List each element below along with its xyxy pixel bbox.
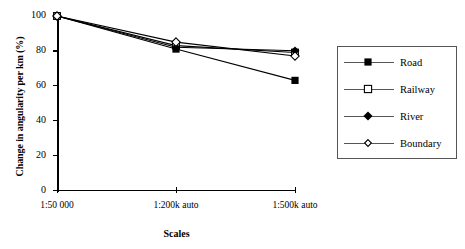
legend-sample-boundary bbox=[338, 133, 400, 153]
filled-square-icon bbox=[362, 56, 374, 68]
data-point-road-2 bbox=[291, 77, 298, 84]
open-diamond-icon bbox=[362, 137, 374, 149]
legend-item-boundary[interactable]: Boundary bbox=[338, 131, 458, 155]
legend-item-river[interactable]: River bbox=[338, 104, 458, 128]
legend-item-railway[interactable]: Railway bbox=[338, 77, 458, 101]
legend-sample-railway bbox=[338, 79, 400, 99]
legend-label-road: Road bbox=[400, 57, 422, 68]
legend-label-boundary: Boundary bbox=[400, 138, 441, 149]
legend-label-river: River bbox=[400, 111, 423, 122]
legend-item-road[interactable]: Road bbox=[338, 50, 458, 74]
filled-diamond-icon bbox=[362, 110, 374, 122]
legend-box: Road Railway River bbox=[337, 46, 457, 159]
chart-figure: Change in angularity per km (%) 100 80 6… bbox=[0, 0, 465, 249]
legend-sample-road bbox=[338, 52, 400, 72]
legend-sample-river bbox=[338, 106, 400, 126]
legend-label-railway: Railway bbox=[400, 84, 435, 95]
open-square-icon bbox=[362, 83, 374, 95]
